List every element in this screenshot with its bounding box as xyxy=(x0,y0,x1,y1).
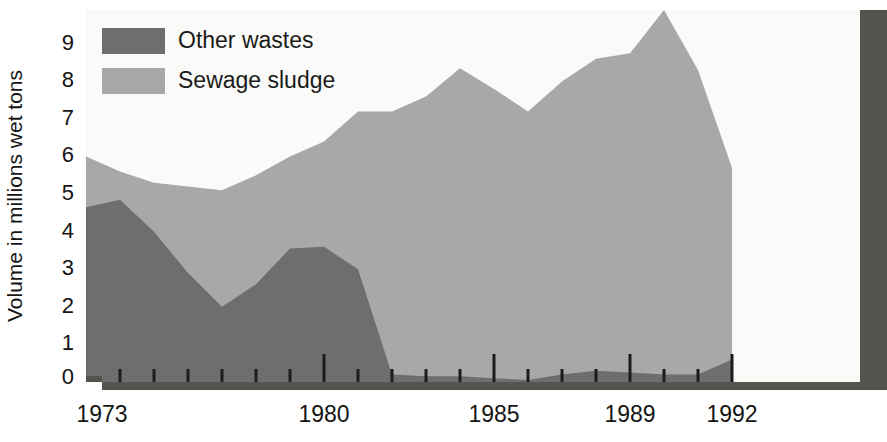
x-tick-1982 xyxy=(391,369,394,382)
x-tick-1983 xyxy=(425,369,428,382)
x-tick-1977 xyxy=(221,369,224,382)
chart-canvas: 0123456789 19731980198519891992 Volume i… xyxy=(0,0,887,442)
x-tick-label-1985: 1985 xyxy=(468,401,519,427)
x-tick-1991 xyxy=(697,369,700,382)
x-tick-1986 xyxy=(527,369,530,382)
y-axis-tick-labels: 0123456789 xyxy=(62,30,74,389)
x-tick-1978 xyxy=(255,369,258,382)
chart-axis-bottom xyxy=(102,382,887,390)
legend-label-other-wastes: Other wastes xyxy=(178,27,314,53)
y-tick-label-2: 2 xyxy=(62,293,74,318)
x-tick-1976 xyxy=(187,369,190,382)
y-tick-label-1: 1 xyxy=(62,330,74,355)
x-tick-1980 xyxy=(323,354,326,382)
y-tick-label-0: 0 xyxy=(62,364,74,389)
y-axis-title: Volume in millions wet tons xyxy=(3,70,26,322)
x-tick-1987 xyxy=(561,369,564,382)
x-tick-1990 xyxy=(663,369,666,382)
y-tick-label-5: 5 xyxy=(62,180,74,205)
x-tick-1985 xyxy=(493,354,496,382)
stacked-area-chart: 0123456789 19731980198519891992 Volume i… xyxy=(0,0,887,442)
x-tick-label-1989: 1989 xyxy=(604,401,655,427)
x-axis-tick-labels: 19731980198519891992 xyxy=(76,401,757,427)
y-tick-label-6: 6 xyxy=(62,142,74,167)
legend-swatch-sewage-sludge xyxy=(102,68,165,94)
chart-frame-right xyxy=(860,10,887,390)
y-tick-label-7: 7 xyxy=(62,105,74,130)
x-tick-1981 xyxy=(357,369,360,382)
x-tick-label-1980: 1980 xyxy=(298,401,349,427)
x-tick-1988 xyxy=(595,369,598,382)
y-tick-label-9: 9 xyxy=(62,30,74,55)
x-tick-1989 xyxy=(629,354,632,382)
x-tick-1979 xyxy=(289,369,292,382)
y-tick-label-4: 4 xyxy=(62,218,74,243)
legend-label-sewage-sludge: Sewage sludge xyxy=(178,67,335,93)
x-tick-label-1973: 1973 xyxy=(76,401,127,427)
x-tick-1984 xyxy=(459,369,462,382)
x-tick-1974 xyxy=(119,369,122,382)
x-tick-1975 xyxy=(153,369,156,382)
x-tick-label-1992: 1992 xyxy=(706,401,757,427)
legend-swatch-other-wastes xyxy=(102,28,165,54)
x-tick-1992 xyxy=(731,354,734,382)
chart-axis-bottom-notch xyxy=(86,376,102,382)
y-tick-label-3: 3 xyxy=(62,255,74,280)
y-tick-label-8: 8 xyxy=(62,67,74,92)
